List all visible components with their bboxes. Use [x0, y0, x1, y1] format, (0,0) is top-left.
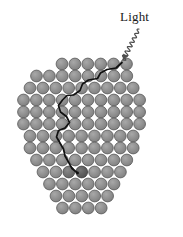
particle [31, 106, 43, 118]
particle [56, 58, 68, 70]
particle [82, 118, 94, 130]
particle [57, 178, 69, 190]
particle [89, 130, 101, 142]
particle [114, 142, 126, 154]
particle [63, 190, 75, 202]
particle [134, 106, 146, 118]
particle [108, 154, 120, 166]
particle [24, 142, 36, 154]
particle [115, 166, 127, 178]
particle [134, 118, 146, 130]
particle [63, 82, 75, 94]
particle [56, 118, 68, 130]
particle [82, 94, 94, 106]
particle [82, 202, 94, 214]
particle [102, 166, 114, 178]
particle [121, 106, 133, 118]
particle [37, 166, 49, 178]
particle [102, 190, 114, 202]
particle [69, 118, 81, 130]
particle [102, 82, 114, 94]
particle [121, 70, 133, 82]
particle [76, 142, 88, 154]
particle [31, 70, 43, 82]
particle [89, 142, 101, 154]
particle [69, 70, 81, 82]
particle [50, 130, 62, 142]
particle [95, 58, 107, 70]
particle [69, 106, 81, 118]
particle [127, 82, 139, 94]
particle [63, 166, 75, 178]
particle [95, 154, 107, 166]
scattering-diagram-canvas [0, 0, 183, 237]
particle [43, 118, 55, 130]
particle [102, 142, 114, 154]
particle [76, 190, 88, 202]
particle [82, 106, 94, 118]
scattering-figure: Light [0, 0, 183, 237]
particle [89, 166, 101, 178]
particle [50, 190, 62, 202]
particle [44, 154, 56, 166]
particle [114, 130, 126, 142]
particle [69, 154, 81, 166]
path-endpoint [76, 172, 79, 175]
particle [44, 178, 56, 190]
particle [43, 94, 55, 106]
particle-array [18, 58, 146, 214]
particle [63, 130, 75, 142]
particle [31, 154, 43, 166]
particle [89, 82, 101, 94]
particle [69, 178, 81, 190]
particle [18, 118, 30, 130]
particle [95, 94, 107, 106]
particle [95, 106, 107, 118]
particle [44, 70, 56, 82]
particle [50, 166, 62, 178]
particle [82, 58, 94, 70]
particle [114, 82, 126, 94]
particle [108, 106, 120, 118]
particle [57, 202, 69, 214]
particle [37, 130, 49, 142]
particle [18, 106, 30, 118]
particle [121, 58, 133, 70]
particle [127, 130, 139, 142]
particle [108, 94, 120, 106]
particle [127, 142, 139, 154]
particle [121, 118, 133, 130]
particle [31, 118, 43, 130]
particle [76, 130, 88, 142]
particle [24, 82, 36, 94]
particle [108, 70, 120, 82]
particle [43, 106, 55, 118]
particle [102, 130, 114, 142]
light-label: Light [120, 10, 149, 23]
particle [108, 178, 120, 190]
particle [37, 82, 49, 94]
incoming-light-ray [123, 29, 139, 60]
particle [50, 82, 62, 94]
particle [95, 118, 107, 130]
particle [82, 154, 94, 166]
particle [89, 190, 101, 202]
particle [18, 94, 30, 106]
particle [82, 178, 94, 190]
particle [121, 154, 133, 166]
particle [69, 58, 81, 70]
particle [134, 94, 146, 106]
particle [70, 202, 82, 214]
particle [31, 94, 43, 106]
particle [121, 94, 133, 106]
particle [95, 178, 107, 190]
particle [95, 202, 107, 214]
particle [108, 118, 120, 130]
particle [24, 130, 36, 142]
particle [56, 70, 68, 82]
particle [37, 142, 49, 154]
